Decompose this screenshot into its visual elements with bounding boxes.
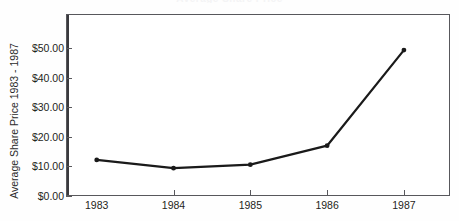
data-point-marker (325, 143, 330, 148)
y-tick-label: $0.00 (2, 190, 64, 202)
x-tick-label: 1987 (374, 199, 434, 212)
data-series-line (97, 50, 404, 168)
y-axis-tick-labels: $0.00$10.00$20.00$30.00$40.00$50.00 (0, 0, 64, 221)
y-tick-label: $10.00 (2, 160, 64, 172)
y-tick-label: $20.00 (2, 131, 64, 143)
data-point-marker (94, 158, 99, 163)
x-tick-label: 1983 (67, 199, 127, 212)
x-tick-label: 1984 (144, 199, 204, 212)
chart-title: Average Share Price (0, 0, 459, 3)
y-tick-label: $30.00 (2, 101, 64, 113)
x-tick-label: 1986 (297, 199, 357, 212)
line-chart-svg (66, 14, 450, 196)
data-point-marker (171, 166, 176, 171)
y-tick-mark (66, 196, 72, 197)
chart-screenshot: Average Share Price Average Share Price … (0, 0, 459, 221)
data-point-marker (248, 162, 253, 167)
data-point-markers (94, 48, 406, 171)
data-point-marker (402, 48, 407, 53)
y-tick-label: $50.00 (2, 42, 64, 54)
y-tick-label: $40.00 (2, 72, 64, 84)
x-tick-label: 1985 (220, 199, 280, 212)
